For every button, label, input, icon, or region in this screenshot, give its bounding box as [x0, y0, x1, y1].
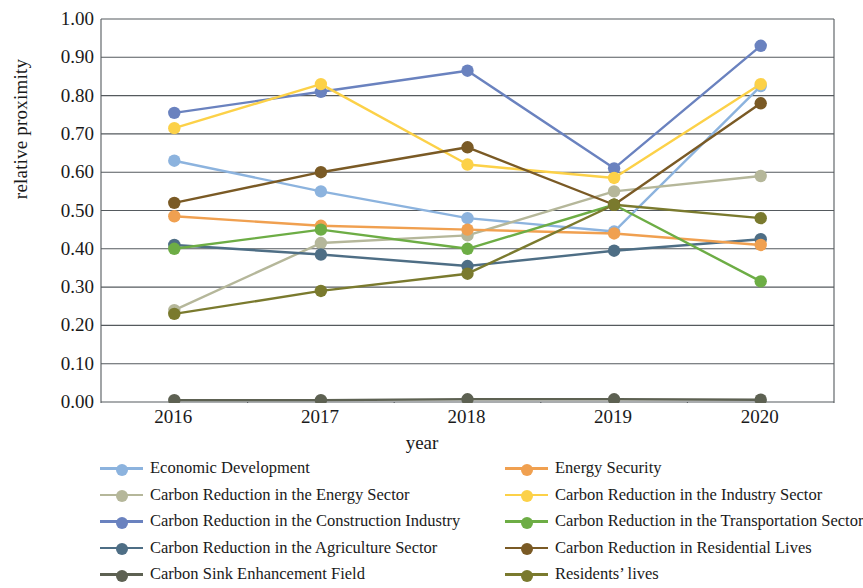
- legend-marker-icon: [505, 488, 548, 502]
- series-marker: [168, 394, 180, 403]
- series-marker: [461, 158, 473, 170]
- series-marker: [608, 199, 620, 211]
- series-marker: [461, 65, 473, 77]
- y-axis-tick-label: 0.80: [24, 85, 94, 104]
- series-marker: [608, 172, 620, 184]
- legend-item[interactable]: Carbon Reduction in Residential Lives: [505, 535, 844, 562]
- x-axis-tick-label: 2020: [741, 406, 779, 428]
- series-marker: [315, 248, 327, 260]
- chart-series: [168, 97, 767, 211]
- legend-item[interactable]: Carbon Reduction in the Agriculture Sect…: [100, 535, 504, 562]
- legend-marker-icon: [505, 514, 548, 528]
- legend-label: Carbon Reduction in Residential Lives: [555, 540, 812, 557]
- legend-label: Economic Development: [150, 460, 310, 477]
- series-marker: [461, 243, 473, 255]
- chart-legend: Economic DevelopmentCarbon Reduction in …: [0, 455, 844, 588]
- y-axis-tick-label: 0.70: [24, 123, 94, 142]
- y-axis-tick-label: 0.20: [24, 315, 94, 334]
- legend-marker-icon: [505, 541, 548, 555]
- series-marker: [755, 239, 767, 251]
- x-axis-tick-label: 2016: [154, 406, 192, 428]
- y-axis-tick-label: 0.50: [24, 200, 94, 219]
- series-marker: [168, 210, 180, 222]
- series-marker: [755, 212, 767, 224]
- legend-item[interactable]: Carbon Reduction in the Energy Sector: [100, 482, 504, 509]
- series-marker: [608, 393, 620, 403]
- legend-label: Carbon Reduction in the Transportation S…: [555, 513, 863, 530]
- series-marker: [315, 285, 327, 297]
- series-marker: [608, 227, 620, 239]
- series-marker: [755, 275, 767, 287]
- series-marker: [168, 107, 180, 119]
- series-marker: [461, 223, 473, 235]
- series-marker: [755, 394, 767, 403]
- legend-label: Carbon Reduction in the Industry Sector: [555, 487, 822, 504]
- series-marker: [315, 185, 327, 197]
- series-marker: [461, 212, 473, 224]
- series-marker: [168, 308, 180, 320]
- y-axis-tick-label: 0.90: [24, 47, 94, 66]
- legend-marker-icon: [100, 488, 143, 502]
- series-marker: [168, 155, 180, 167]
- legend-marker-icon: [505, 461, 548, 475]
- legend-marker-icon: [100, 567, 143, 581]
- legend-column-right: Energy SecurityCarbon Reduction in the I…: [505, 455, 844, 588]
- x-axis-title: year: [0, 432, 844, 454]
- series-marker: [315, 237, 327, 249]
- x-axis-tick-label: 2017: [301, 406, 339, 428]
- legend-label: Energy Security: [555, 460, 661, 477]
- legend-label: Carbon Sink Enhancement Field: [150, 566, 365, 583]
- series-marker: [608, 245, 620, 257]
- series-marker: [755, 40, 767, 52]
- legend-item[interactable]: Energy Security: [505, 455, 844, 482]
- series-marker: [168, 197, 180, 209]
- series-marker: [315, 78, 327, 90]
- legend-marker-icon: [100, 461, 143, 475]
- legend-item[interactable]: Residents’ lives: [505, 561, 844, 588]
- legend-label: Carbon Reduction in the Agriculture Sect…: [150, 540, 437, 557]
- y-axis-tick-labels: 0.000.100.200.300.400.500.600.700.800.90…: [22, 0, 94, 420]
- series-marker: [168, 243, 180, 255]
- legend-marker-icon: [100, 541, 143, 555]
- series-marker: [461, 267, 473, 279]
- y-axis-tick-label: 0.10: [24, 353, 94, 372]
- legend-label: Carbon Reduction in the Construction Ind…: [150, 513, 460, 530]
- series-marker: [315, 166, 327, 178]
- y-axis-tick-label: 0.60: [24, 162, 94, 181]
- series-marker: [315, 394, 327, 403]
- legend-item[interactable]: Carbon Reduction in the Transportation S…: [505, 508, 844, 535]
- y-axis-tick-label: 0.00: [24, 392, 94, 411]
- series-marker: [608, 185, 620, 197]
- legend-item[interactable]: Economic Development: [100, 455, 504, 482]
- legend-label: Carbon Reduction in the Energy Sector: [150, 487, 410, 504]
- y-axis-tick-label: 0.30: [24, 277, 94, 296]
- series-marker: [755, 170, 767, 182]
- legend-column-left: Economic DevelopmentCarbon Reduction in …: [100, 455, 504, 588]
- series-marker: [461, 393, 473, 403]
- y-axis-tick-label: 0.40: [24, 238, 94, 257]
- plot-area: [100, 18, 833, 401]
- series-marker: [461, 141, 473, 153]
- series-marker: [168, 122, 180, 134]
- legend-label: Residents’ lives: [555, 566, 659, 583]
- legend-item[interactable]: Carbon Sink Enhancement Field: [100, 561, 504, 588]
- chart-series: [168, 40, 767, 175]
- plot-svg: [100, 18, 835, 403]
- legend-item[interactable]: Carbon Reduction in the Industry Sector: [505, 482, 844, 509]
- x-axis-tick-label: 2019: [594, 406, 632, 428]
- series-marker: [315, 223, 327, 235]
- series-marker: [755, 97, 767, 109]
- legend-marker-icon: [100, 514, 143, 528]
- legend-item[interactable]: Carbon Reduction in the Construction Ind…: [100, 508, 504, 535]
- series-marker: [755, 78, 767, 90]
- x-axis-tick-label: 2018: [448, 406, 486, 428]
- legend-marker-icon: [505, 567, 548, 581]
- y-axis-tick-label: 1.00: [24, 9, 94, 28]
